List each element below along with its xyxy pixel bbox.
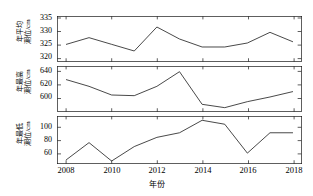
panel2-ytick-640: 640: [28, 67, 52, 75]
xtick-2016: 2016: [230, 166, 266, 175]
xtick-2018: 2018: [276, 166, 312, 175]
panel1-ytick-335: 335: [28, 14, 52, 22]
xtick-2010: 2010: [94, 166, 130, 175]
panel2-ytick-600: 600: [28, 93, 52, 101]
panel2-plot-area: [57, 66, 302, 112]
panel3-plot-area: [57, 116, 302, 164]
xtick-2012: 2012: [139, 166, 175, 175]
panel1-plot-area: [57, 16, 302, 62]
panel1-ytick-330: 330: [28, 27, 52, 35]
panel3-ytick-60: 60: [28, 149, 52, 157]
tide-level-multi-panel-figure: 年平均 潮位/cm 335 330 325 320: [0, 0, 313, 196]
xtick-2014: 2014: [185, 166, 221, 175]
x-axis-title: 年份: [0, 180, 313, 189]
panel1-ytick-325: 325: [28, 40, 52, 48]
panel2-ytick-620: 620: [28, 80, 52, 88]
panel3-ytick-80: 80: [28, 136, 52, 144]
panel3-ytick-100: 100: [28, 123, 52, 131]
xtick-2008: 2008: [48, 166, 84, 175]
